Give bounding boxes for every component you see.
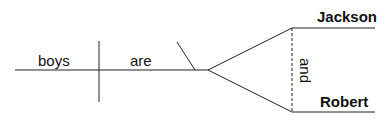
fork-upper-line: [208, 28, 292, 70]
conjunction-word: and: [297, 58, 314, 83]
sentence-diagram: boys are Jackson Robert and: [0, 0, 386, 120]
subject-word: boys: [38, 52, 70, 69]
verb-word: are: [130, 52, 152, 69]
fork-lower-line: [208, 70, 292, 112]
predicate-slant-line: [177, 42, 195, 70]
predicate-word-upper: Jackson: [317, 8, 377, 25]
predicate-word-lower: Robert: [320, 93, 368, 110]
